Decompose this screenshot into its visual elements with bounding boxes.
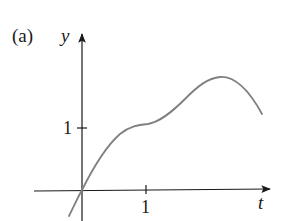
x-tick-label-1: 1 xyxy=(141,197,150,217)
curve-series xyxy=(69,77,262,216)
y-axis-label: y xyxy=(59,25,70,46)
panel-label: (a) xyxy=(12,25,33,47)
y-tick-label-1: 1 xyxy=(63,118,72,138)
x-axis xyxy=(34,189,270,191)
line-chart: (a) y t 1 1 xyxy=(0,0,291,221)
x-axis-label: t xyxy=(258,192,264,213)
